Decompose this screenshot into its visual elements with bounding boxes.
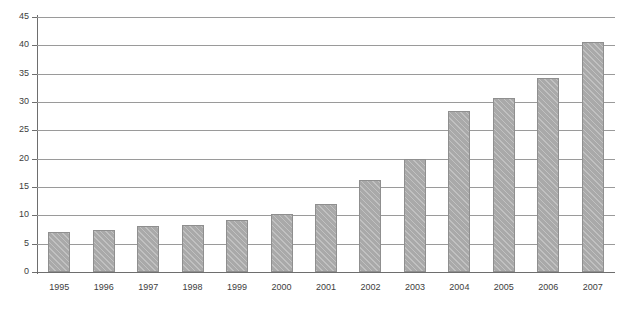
y-tick-label: 25 xyxy=(0,125,29,134)
y-tick-label: 30 xyxy=(0,97,29,106)
bar-1995 xyxy=(48,232,70,272)
y-tick-label: 35 xyxy=(0,69,29,78)
y-tick-label: 10 xyxy=(0,210,29,219)
x-tick-label-2002: 2002 xyxy=(348,282,392,292)
y-tick-label: 20 xyxy=(0,154,29,163)
bar-2001 xyxy=(315,204,337,272)
x-tick-label-2007: 2007 xyxy=(571,282,615,292)
y-tick-label: 45 xyxy=(0,12,29,21)
bar-chart: 051015202530354045 199519961997199819992… xyxy=(0,0,617,310)
bar-1997 xyxy=(137,226,159,272)
x-tick-label-2000: 2000 xyxy=(260,282,304,292)
x-tick-label-1999: 1999 xyxy=(215,282,259,292)
gridline xyxy=(37,187,615,188)
y-tick-label: 40 xyxy=(0,40,29,49)
y-tick-label: 5 xyxy=(0,239,29,248)
gridline xyxy=(37,74,615,75)
x-tick-label-1998: 1998 xyxy=(171,282,215,292)
bar-2006 xyxy=(537,78,559,272)
y-tick-mark xyxy=(32,272,37,273)
x-tick-label-2006: 2006 xyxy=(526,282,570,292)
gridline xyxy=(37,159,615,160)
bar-1996 xyxy=(93,230,115,272)
bar-2002 xyxy=(359,180,381,272)
plot-area xyxy=(37,17,615,272)
bar-2003 xyxy=(404,159,426,272)
bar-2004 xyxy=(448,111,470,272)
bar-1999 xyxy=(226,220,248,272)
x-tick-label-2005: 2005 xyxy=(482,282,526,292)
gridline xyxy=(37,102,615,103)
y-tick-label: 0 xyxy=(0,267,29,276)
bar-1998 xyxy=(182,225,204,272)
gridline xyxy=(37,45,615,46)
x-tick-label-2004: 2004 xyxy=(437,282,481,292)
x-tick-label-1996: 1996 xyxy=(82,282,126,292)
y-tick-label: 15 xyxy=(0,182,29,191)
x-axis-line xyxy=(37,272,615,273)
bar-2000 xyxy=(271,214,293,272)
x-tick-label-1997: 1997 xyxy=(126,282,170,292)
x-tick-label-2003: 2003 xyxy=(393,282,437,292)
bar-2005 xyxy=(493,98,515,272)
x-tick-label-1995: 1995 xyxy=(37,282,81,292)
gridline xyxy=(37,17,615,18)
bar-2007 xyxy=(582,42,604,272)
gridline xyxy=(37,130,615,131)
x-tick-label-2001: 2001 xyxy=(304,282,348,292)
